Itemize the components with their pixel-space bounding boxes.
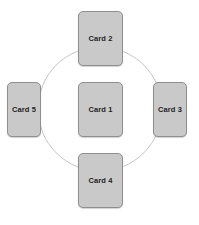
card-5-label: Card 5	[12, 105, 36, 114]
card-3-label: Card 3	[158, 105, 182, 114]
card-4-label: Card 4	[89, 176, 113, 185]
card-1[interactable]: Card 1	[78, 82, 123, 137]
card-5[interactable]: Card 5	[7, 82, 41, 137]
card-1-label: Card 1	[89, 105, 113, 114]
diagram-canvas: Card 5 Card 3 Card 2 Card 4 Card 1	[0, 0, 199, 225]
card-4[interactable]: Card 4	[78, 153, 123, 208]
card-2-label: Card 2	[89, 34, 113, 43]
card-3[interactable]: Card 3	[153, 82, 187, 137]
card-2[interactable]: Card 2	[78, 11, 123, 66]
